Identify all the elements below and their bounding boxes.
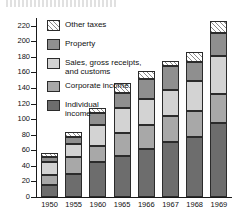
bar-1968 [186,18,203,197]
y-tick-label: 120 [5,100,30,108]
bar-segment-1955-corporate [65,157,82,175]
legend-swatch-sales [47,58,60,69]
legend-swatch-property [47,39,60,50]
x-axis-line [36,197,232,198]
bar-segment-1967-sales [162,90,179,116]
x-tick-label-1969: 1969 [202,200,236,209]
bar-segment-1955-other [65,132,82,137]
bar-segment-1955-property [65,137,82,144]
bar-segment-1965-sales [114,108,131,133]
bar-segment-1968-other [186,52,203,62]
bar-1965 [114,18,131,197]
y-tick-mark [31,88,37,89]
legend-label-property: Property [65,39,95,49]
bar-segment-1960-individual [89,162,106,197]
bar-segment-1965-property [114,93,131,109]
legend-label-individual: Individual income [65,100,99,118]
bar-segment-1955-sales [65,144,82,156]
y-tick-label: 200 [5,37,30,45]
y-tick-mark [31,119,37,120]
y-tick-label: 180 [5,53,30,61]
y-tick-mark [31,26,37,27]
bar-segment-1950-other [41,153,58,157]
y-tick-label: 0 [5,193,30,201]
bar-segment-1967-individual [162,142,179,197]
legend-item-individual: Individual income [47,100,99,118]
y-tick-label: 80 [5,131,30,139]
y-tick-mark [31,104,37,105]
bar-segment-1955-individual [65,174,82,197]
bar-segment-1966-individual [138,149,155,197]
y-tick-label: 40 [5,162,30,170]
y-tick-mark [31,181,37,182]
legend-item-sales: Sales, gross receipts, and customs [47,58,141,76]
bar-1969 [210,18,227,197]
y-tick-mark [31,57,37,58]
legend-item-corporate: Corporate income [47,81,129,92]
bar-segment-1968-sales [186,81,203,111]
bar-segment-1969-individual [210,123,227,197]
bar-segment-1965-corporate [114,133,131,156]
legend-swatch-corporate [47,81,60,92]
bar-segment-1967-corporate [162,116,179,142]
y-tick-mark [31,135,37,136]
y-tick-label: 160 [5,68,30,76]
y-tick-mark [31,166,37,167]
y-tick-mark [31,150,37,151]
bar-segment-1967-other [162,61,179,66]
bar-1967 [162,18,179,197]
y-tick-mark [31,72,37,73]
bar-segment-1950-individual [41,185,58,197]
bar-segment-1960-sales [89,125,106,146]
y-tick-label: 220 [5,22,30,30]
legend-label-other: Other taxes [65,20,106,30]
legend-item-other: Other taxes [47,20,106,31]
bar-segment-1950-sales [41,162,58,175]
chart-figure: 020406080100120140160180200220 195019551… [0,0,236,223]
bar-segment-1950-corporate [41,175,58,184]
legend-item-property: Property [47,39,95,50]
bar-segment-1969-property [210,33,227,56]
y-tick-mark [31,41,37,42]
bar-segment-1966-sales [138,99,155,125]
bar-segment-1969-other [210,21,227,33]
clipped-header-text [6,0,116,7]
bar-segment-1968-corporate [186,111,203,137]
bar-segment-1960-corporate [89,146,106,162]
bar-segment-1966-property [138,79,155,99]
y-tick-label: 100 [5,115,30,123]
y-tick-label: 140 [5,84,30,92]
bar-segment-1950-property [41,157,58,162]
legend-swatch-other [47,20,60,31]
y-axis-line [36,18,37,198]
bar-1966 [138,18,155,197]
bar-segment-1966-corporate [138,125,155,149]
bar-segment-1969-corporate [210,94,227,124]
bar-segment-1965-individual [114,156,131,197]
bar-segment-1968-property [186,62,203,81]
y-tick-label: 20 [5,177,30,185]
bar-segment-1969-sales [210,56,227,93]
bar-segment-1968-individual [186,137,203,197]
legend-label-sales: Sales, gross receipts, and customs [65,58,141,76]
y-tick-label: 60 [5,146,30,154]
bar-segment-1967-property [162,66,179,90]
legend-swatch-individual [47,100,60,111]
y-tick-mark [31,197,37,198]
legend-label-corporate: Corporate income [65,81,129,91]
